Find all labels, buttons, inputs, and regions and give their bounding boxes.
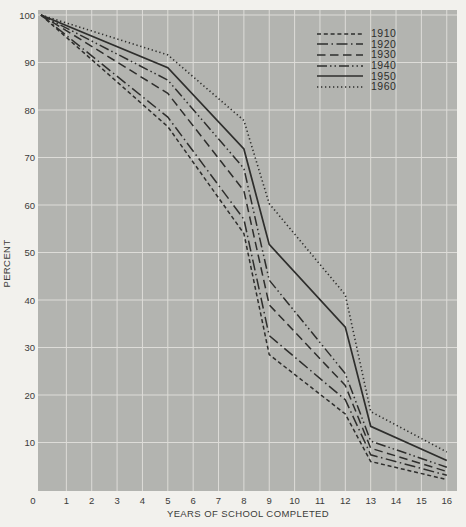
y-tick-label: 80 [24,105,35,116]
x-tick-label: 7 [216,495,221,506]
y-tick-label: 40 [24,295,35,306]
x-tick-label: 10 [289,495,300,506]
y-tick-label: 90 [24,57,35,68]
legend-line-sample-1950 [316,71,364,80]
y-tick-label: 20 [24,390,35,401]
chart-figure: 0123456789101112131415161009080706050403… [0,0,466,527]
x-tick-label: 12 [340,495,351,506]
legend-item-1960: 1960 [316,81,396,92]
x-tick-label: 5 [165,495,170,506]
legend-line-sample-1930 [316,50,364,59]
x-axis-title: YEARS OF SCHOOL COMPLETED [0,508,466,519]
x-tick-label: 4 [140,495,145,506]
x-tick-label: 13 [365,495,376,506]
legend-line-sample-1960 [316,82,364,91]
x-tick-label: 16 [441,495,452,506]
legend: 1910 1920 1930 1940 1950 1960 [316,28,396,92]
y-tick-label: 30 [24,342,35,353]
x-tick-label: 14 [391,495,402,506]
legend-line-sample-1940 [316,61,364,70]
x-tick-label: 6 [191,495,196,506]
legend-line-sample-1910 [316,29,364,38]
y-tick-label: 50 [24,247,35,258]
x-tick-label: 0 [30,495,35,506]
x-tick-label: 2 [89,495,94,506]
x-tick-label: 11 [315,495,325,506]
y-tick-label: 100 [19,10,35,21]
legend-line-sample-1920 [316,39,364,48]
x-tick-label: 1 [64,495,69,506]
y-tick-label: 70 [24,152,35,163]
y-axis-title: PERCENT [1,232,12,296]
legend-label: 1960 [371,80,396,92]
x-tick-label: 3 [114,495,119,506]
x-tick-label: 8 [241,495,246,506]
x-tick-label: 9 [267,495,272,506]
y-tick-label: 60 [24,200,35,211]
y-tick-label: 10 [24,437,35,448]
x-tick-label: 15 [416,495,427,506]
